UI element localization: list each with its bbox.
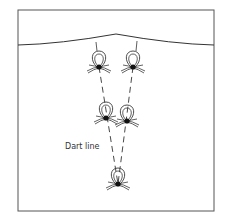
frame-border — [18, 10, 214, 211]
dart-line-right — [118, 67, 133, 184]
tailor-tack-middle-right-icon — [115, 105, 139, 127]
tailor-tack-middle-left-icon — [94, 102, 118, 124]
dart-line-left — [99, 67, 118, 184]
dart-diagram — [0, 0, 227, 221]
stem-right — [136, 41, 137, 51]
tailor-tack-bottom-point-icon — [106, 168, 130, 190]
dart-line-label: Dart line — [65, 142, 99, 151]
stem-left — [96, 42, 97, 51]
garment-edge-curve — [18, 34, 214, 45]
